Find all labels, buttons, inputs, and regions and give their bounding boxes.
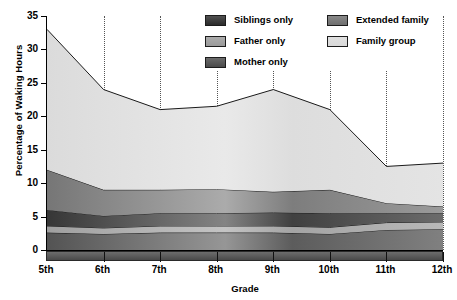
gridline	[443, 16, 444, 250]
axis-separator	[386, 252, 387, 262]
axis-separator	[273, 252, 274, 262]
legend-label: Mother only	[234, 56, 288, 67]
legend-label: Siblings only	[234, 14, 293, 25]
legend-label: Extended family	[356, 14, 429, 25]
x-axis-title: Grade	[45, 283, 445, 294]
legend-label: Family group	[356, 35, 416, 46]
legend-label: Father only	[234, 35, 285, 46]
x-tick-label: 8th	[191, 264, 241, 275]
y-tick-label: 35	[8, 10, 38, 21]
axis-separator	[443, 252, 444, 262]
y-tick-label: 10	[8, 177, 38, 188]
legend: Siblings onlyFather onlyMother onlyExten…	[205, 14, 443, 70]
y-tick-label: 0	[8, 244, 38, 255]
legend-swatch	[327, 36, 348, 47]
x-axis-bar	[46, 251, 443, 261]
x-tick-label: 9th	[247, 264, 297, 275]
y-tick-label: 5	[8, 211, 38, 222]
legend-swatch	[205, 57, 226, 68]
legend-swatch	[205, 36, 226, 47]
axis-separator	[330, 252, 331, 262]
x-tick-label: 10th	[304, 264, 354, 275]
x-tick-label: 7th	[134, 264, 184, 275]
y-tick-label: 20	[8, 110, 38, 121]
y-tick-label: 25	[8, 77, 38, 88]
y-tick-label: 15	[8, 144, 38, 155]
axis-separator	[104, 252, 105, 262]
axis-separator	[160, 252, 161, 262]
x-tick-label: 5th	[21, 264, 71, 275]
legend-swatch	[327, 15, 348, 26]
x-tick-label: 11th	[360, 264, 410, 275]
y-tick-label: 30	[8, 43, 38, 54]
legend-swatch	[205, 15, 226, 26]
axis-separator	[217, 252, 218, 262]
x-tick-label: 12th	[417, 264, 457, 275]
x-tick-label: 6th	[78, 264, 128, 275]
